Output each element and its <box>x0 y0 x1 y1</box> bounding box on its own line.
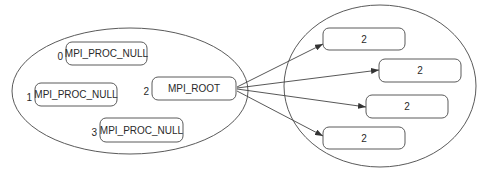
arrow <box>237 44 323 87</box>
right-group: 2222 <box>284 5 476 167</box>
rank-label: 1 <box>26 92 32 103</box>
process-label: 2 <box>404 101 410 112</box>
process-label: MPI_ROOT <box>168 83 220 94</box>
process-label: MPI_PROC_NULL <box>100 125 184 136</box>
rank-label: 0 <box>57 51 63 62</box>
arrow <box>237 89 366 107</box>
process-label: 2 <box>417 65 423 76</box>
process-node: 2 <box>323 28 405 50</box>
rank-label: 2 <box>143 86 149 97</box>
broadcast-arrows <box>237 44 379 136</box>
process-node: 2 <box>379 59 461 82</box>
process-node: MPI_PROC_NULL1 <box>26 83 118 106</box>
process-node: MPI_PROC_NULL3 <box>91 118 183 142</box>
process-node: MPI_PROC_NULL0 <box>57 42 148 65</box>
arrow <box>237 70 379 88</box>
mpi-broadcast-diagram: MPI_PROC_NULL0MPI_PROC_NULL1MPI_ROOT2MPI… <box>0 0 483 174</box>
diagram-canvas: MPI_PROC_NULL0MPI_PROC_NULL1MPI_ROOT2MPI… <box>0 0 483 174</box>
process-node: MPI_ROOT2 <box>143 77 236 100</box>
process-node: 2 <box>323 127 405 149</box>
process-node: 2 <box>366 95 448 118</box>
process-label: MPI_PROC_NULL <box>65 48 149 59</box>
process-label: MPI_PROC_NULL <box>34 89 118 100</box>
left-group: MPI_PROC_NULL0MPI_PROC_NULL1MPI_ROOT2MPI… <box>12 28 248 154</box>
process-label: 2 <box>361 133 367 144</box>
process-label: 2 <box>361 34 367 45</box>
rank-label: 3 <box>91 127 97 138</box>
arrow <box>237 91 323 136</box>
